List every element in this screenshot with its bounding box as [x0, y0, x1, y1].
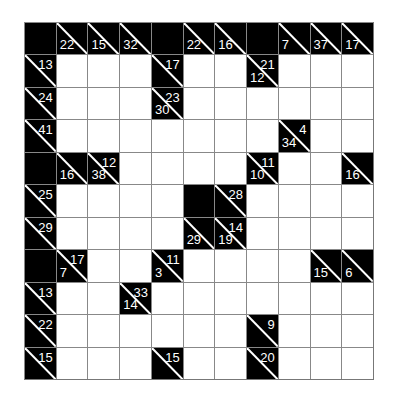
entry-cell[interactable]: [214, 314, 246, 346]
entry-cell[interactable]: [278, 87, 310, 119]
entry-cell[interactable]: [151, 152, 183, 184]
entry-cell[interactable]: [278, 347, 310, 379]
entry-cell[interactable]: [310, 152, 342, 184]
entry-cell[interactable]: [151, 282, 183, 314]
down-clue: 16: [218, 38, 232, 51]
entry-cell[interactable]: [151, 217, 183, 249]
entry-cell[interactable]: [151, 184, 183, 216]
clue-cell: 9: [246, 314, 278, 346]
entry-cell[interactable]: [119, 314, 151, 346]
across-clue: 4: [299, 123, 306, 136]
entry-cell[interactable]: [214, 119, 246, 151]
entry-cell[interactable]: [183, 119, 215, 151]
entry-cell[interactable]: [278, 282, 310, 314]
entry-cell[interactable]: [87, 347, 119, 379]
entry-cell[interactable]: [341, 282, 373, 314]
entry-cell[interactable]: [310, 119, 342, 151]
entry-cell[interactable]: [183, 314, 215, 346]
entry-cell[interactable]: [183, 87, 215, 119]
entry-cell[interactable]: [87, 87, 119, 119]
entry-cell[interactable]: [56, 282, 88, 314]
entry-cell[interactable]: [341, 119, 373, 151]
clue-cell: 177: [56, 249, 88, 281]
entry-cell[interactable]: [119, 347, 151, 379]
clue-cell: 41: [24, 119, 56, 151]
entry-cell[interactable]: [278, 217, 310, 249]
entry-cell[interactable]: [246, 87, 278, 119]
entry-cell[interactable]: [87, 249, 119, 281]
entry-cell[interactable]: [310, 54, 342, 86]
entry-cell[interactable]: [183, 249, 215, 281]
entry-cell[interactable]: [56, 347, 88, 379]
entry-cell[interactable]: [214, 282, 246, 314]
entry-cell[interactable]: [246, 282, 278, 314]
entry-cell[interactable]: [151, 314, 183, 346]
entry-cell[interactable]: [214, 347, 246, 379]
entry-cell[interactable]: [278, 152, 310, 184]
clue-cell: 3314: [119, 282, 151, 314]
entry-cell[interactable]: [183, 54, 215, 86]
entry-cell[interactable]: [183, 152, 215, 184]
entry-cell[interactable]: [119, 152, 151, 184]
entry-cell[interactable]: [278, 184, 310, 216]
across-clue: 15: [38, 351, 52, 364]
across-clue: 13: [38, 286, 52, 299]
entry-cell[interactable]: [214, 152, 246, 184]
down-clue: 6: [345, 266, 352, 279]
entry-cell[interactable]: [119, 54, 151, 86]
clue-cell: 7: [278, 22, 310, 54]
entry-cell[interactable]: [214, 54, 246, 86]
entry-cell[interactable]: [246, 249, 278, 281]
entry-cell[interactable]: [341, 314, 373, 346]
clue-cell: 22: [24, 314, 56, 346]
entry-cell[interactable]: [246, 184, 278, 216]
entry-cell[interactable]: [151, 119, 183, 151]
entry-cell[interactable]: [56, 54, 88, 86]
entry-cell[interactable]: [119, 184, 151, 216]
entry-cell[interactable]: [341, 87, 373, 119]
entry-cell[interactable]: [246, 119, 278, 151]
entry-cell[interactable]: [56, 119, 88, 151]
entry-cell[interactable]: [56, 314, 88, 346]
entry-cell[interactable]: [183, 282, 215, 314]
blocked-cell: [151, 22, 183, 54]
entry-cell[interactable]: [310, 87, 342, 119]
clue-cell: 1238: [87, 152, 119, 184]
entry-cell[interactable]: [278, 249, 310, 281]
entry-cell[interactable]: [119, 119, 151, 151]
clue-cell: 22: [183, 22, 215, 54]
down-clue: 19: [218, 233, 232, 246]
entry-cell[interactable]: [341, 54, 373, 86]
entry-cell[interactable]: [310, 184, 342, 216]
entry-cell[interactable]: [87, 119, 119, 151]
entry-cell[interactable]: [87, 54, 119, 86]
entry-cell[interactable]: [278, 314, 310, 346]
down-clue: 7: [282, 38, 289, 51]
entry-cell[interactable]: [56, 87, 88, 119]
entry-cell[interactable]: [56, 217, 88, 249]
entry-cell[interactable]: [341, 347, 373, 379]
entry-cell[interactable]: [246, 217, 278, 249]
across-clue: 11: [166, 253, 180, 266]
entry-cell[interactable]: [87, 217, 119, 249]
entry-cell[interactable]: [87, 184, 119, 216]
entry-cell[interactable]: [56, 184, 88, 216]
entry-cell[interactable]: [310, 217, 342, 249]
entry-cell[interactable]: [87, 282, 119, 314]
across-clue: 25: [38, 188, 52, 201]
entry-cell[interactable]: [278, 54, 310, 86]
entry-cell[interactable]: [341, 217, 373, 249]
entry-cell[interactable]: [183, 347, 215, 379]
entry-cell[interactable]: [214, 87, 246, 119]
entry-cell[interactable]: [119, 249, 151, 281]
entry-cell[interactable]: [310, 347, 342, 379]
entry-cell[interactable]: [310, 314, 342, 346]
entry-cell[interactable]: [310, 282, 342, 314]
entry-cell[interactable]: [119, 217, 151, 249]
entry-cell[interactable]: [214, 249, 246, 281]
entry-cell[interactable]: [119, 87, 151, 119]
clue-cell: 20: [246, 347, 278, 379]
entry-cell[interactable]: [341, 184, 373, 216]
entry-cell[interactable]: [87, 314, 119, 346]
clue-cell: 29: [24, 217, 56, 249]
